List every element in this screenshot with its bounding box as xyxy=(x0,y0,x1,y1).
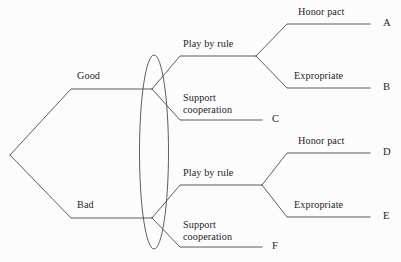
edge-label-good-play-by-rule: Play by rule xyxy=(183,38,233,49)
edge-label-bad-honor-pact: Honor pact xyxy=(298,135,345,146)
outcome-label-e: E xyxy=(383,210,390,221)
edge-bad-play-by-rule xyxy=(152,185,262,218)
edge-label-good-support-cooperation-line1: Support xyxy=(183,92,216,104)
edge-good-play-by-rule xyxy=(152,56,256,89)
edge-label-bad-support-cooperation-line1: Support xyxy=(183,219,216,231)
edge-label-bad: Bad xyxy=(77,199,94,210)
edge-label-good-honor-pact: Honor pact xyxy=(298,6,345,17)
edge-label-bad-support-cooperation-line2: cooperation xyxy=(183,231,232,243)
edge-label-good-expropriate: Expropriate xyxy=(294,70,343,81)
outcome-label-c: C xyxy=(272,113,279,124)
outcome-label-d: D xyxy=(383,146,391,157)
edge-label-good: Good xyxy=(77,70,100,81)
game-tree-figure: Good Bad Play by rule Support cooperatio… xyxy=(0,0,401,262)
edge-good-honor-pact xyxy=(256,24,370,56)
edge-root-to-good xyxy=(10,89,152,155)
edge-label-bad-play-by-rule: Play by rule xyxy=(183,167,233,178)
outcome-label-b: B xyxy=(383,81,390,92)
outcome-label-a: A xyxy=(383,17,391,28)
edge-label-good-support-cooperation-line2: cooperation xyxy=(183,104,232,116)
outcome-label-f: F xyxy=(272,240,278,251)
edge-label-bad-expropriate: Expropriate xyxy=(294,199,343,210)
edge-bad-honor-pact xyxy=(262,153,370,185)
